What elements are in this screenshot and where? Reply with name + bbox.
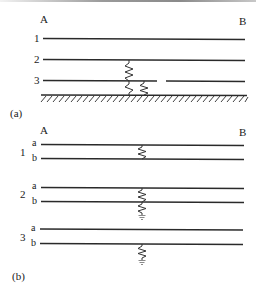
line-label-3: 3	[34, 75, 40, 86]
ground-symbol-icon	[139, 261, 146, 265]
end-label-a: A	[40, 125, 48, 136]
resistor-icon	[138, 188, 146, 202]
resistor-icon	[138, 202, 146, 215]
group-label-2: 2	[20, 189, 26, 200]
sub-label-a: a	[31, 223, 35, 233]
conductor-3-left	[43, 81, 157, 82]
conductor-3-right	[166, 81, 245, 82]
group-label-3: 3	[20, 232, 26, 243]
ground-hatching	[41, 96, 248, 102]
caption-b: (b)	[12, 271, 25, 282]
line-label-2: 2	[34, 54, 40, 65]
sub-label-a: a	[32, 138, 36, 148]
resistor-icon	[125, 60, 133, 95]
end-label-a: A	[40, 14, 48, 25]
group-label-1: 1	[20, 147, 26, 158]
sub-label-b: b	[31, 238, 36, 248]
resistor-icon	[140, 81, 148, 95]
sub-label-b: b	[32, 196, 37, 206]
resistor-icon	[138, 145, 146, 159]
part-b-diagram	[40, 145, 244, 265]
sub-label-b: b	[32, 153, 37, 163]
ground-line	[41, 95, 247, 96]
end-label-b: B	[239, 16, 246, 27]
caption-a: (a)	[10, 108, 22, 119]
line-label-1: 1	[34, 33, 40, 44]
end-label-b: B	[239, 127, 246, 138]
fault-diagram	[0, 0, 256, 294]
sub-label-a: a	[32, 181, 36, 191]
part-a-diagram	[41, 39, 248, 103]
conductor-2	[43, 60, 245, 61]
ground-symbol-icon	[139, 216, 146, 220]
conductor-3a	[40, 229, 243, 230]
resistor-icon	[138, 244, 146, 260]
conductor-1	[43, 39, 245, 40]
